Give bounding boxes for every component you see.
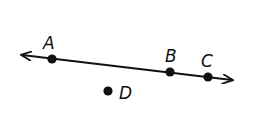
point-c-dot <box>203 72 212 81</box>
point-d: D <box>103 83 132 103</box>
diagram-canvas: ABCD <box>0 0 265 125</box>
point-a-label: A <box>42 33 55 53</box>
point-d-label: D <box>119 83 132 103</box>
point-d-dot <box>103 86 112 95</box>
diagram-svg: ABCD <box>0 0 265 125</box>
point-b-label: B <box>165 46 177 66</box>
point-a: A <box>42 33 57 64</box>
point-c-label: C <box>201 51 213 71</box>
point-b: B <box>165 46 177 77</box>
point-b-dot <box>165 67 174 76</box>
point-a-dot <box>47 54 56 63</box>
